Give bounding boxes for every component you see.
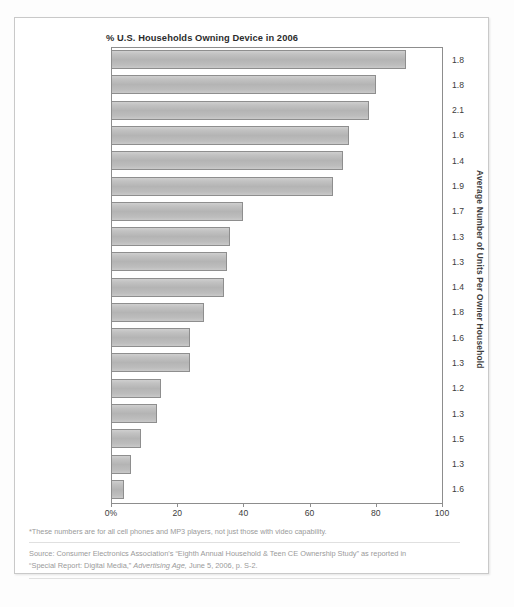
chart-row [111, 451, 442, 476]
units-per-household-value: 1.4 [452, 156, 464, 166]
bar [111, 126, 349, 145]
x-axis-tick-label: 60 [305, 508, 315, 518]
units-per-household-value: 1.3 [452, 257, 464, 267]
chart-row [111, 249, 442, 274]
x-axis-tick [177, 503, 178, 507]
bar [111, 353, 190, 372]
bar [111, 278, 224, 297]
bar [111, 202, 243, 221]
source-publication: Advertising Age, [133, 561, 187, 570]
chart-row [111, 350, 442, 375]
units-per-household-value: 1.3 [452, 358, 464, 368]
chart-row [111, 477, 442, 502]
units-per-household-value: 1.3 [452, 409, 464, 419]
x-axis-tick [111, 503, 112, 507]
x-axis: 0%20406080100 [111, 503, 443, 517]
chart-row [111, 275, 442, 300]
secondary-axis-title: Average Number of Units Per Owner Househ… [467, 170, 485, 369]
chart-title: % U.S. Households Owning Device in 2006 [106, 33, 298, 43]
plot-right-border [442, 47, 443, 503]
bar [111, 404, 157, 423]
bar [111, 303, 204, 322]
bar [111, 177, 333, 196]
x-axis-tick-label: 40 [239, 508, 249, 518]
source-line-2a: “Special Report: Digital Media,” [29, 561, 133, 570]
source-line-1: Source: Consumer Electronics Association… [29, 549, 406, 558]
page-background: % U.S. Households Owning Device in 2006 … [0, 0, 514, 607]
bar [111, 50, 406, 69]
units-per-household-value: 1.8 [452, 80, 464, 90]
x-axis-tick [442, 503, 443, 507]
x-axis-tick-label: 100 [435, 508, 449, 518]
units-per-household-value: 1.2 [452, 383, 464, 393]
bar [111, 151, 343, 170]
chart-row [111, 173, 442, 198]
chart-row [111, 224, 442, 249]
source-line-2b: June 5, 2006, p. S-2. [187, 561, 258, 570]
bar [111, 379, 161, 398]
x-axis-tick [376, 503, 377, 507]
units-per-household-value: 1.8 [452, 307, 464, 317]
chart-row [111, 426, 442, 451]
bar [111, 328, 190, 347]
x-axis-tick [310, 503, 311, 507]
units-per-household-value: 1.4 [452, 282, 464, 292]
bar [111, 480, 124, 499]
x-axis-tick-label: 0% [105, 508, 117, 518]
units-per-household-value: 1.5 [452, 434, 464, 444]
source-divider-bottom [29, 578, 460, 579]
chart-row [111, 401, 442, 426]
footnote-text: *These numbers are for all cell phones a… [29, 527, 449, 537]
units-per-household-value: 1.6 [452, 130, 464, 140]
units-per-household-value: 1.8 [452, 55, 464, 65]
chart-row [111, 148, 442, 173]
chart-row [111, 98, 442, 123]
x-axis-tick-label: 20 [172, 508, 182, 518]
units-per-household-value: 1.6 [452, 484, 464, 494]
chart-row [111, 300, 442, 325]
units-per-household-value: 1.3 [452, 232, 464, 242]
bar [111, 429, 141, 448]
chart-row [111, 123, 442, 148]
chart-row [111, 376, 442, 401]
units-per-household-value: 2.1 [452, 105, 464, 115]
bar [111, 101, 369, 120]
x-axis-tick-label: 80 [371, 508, 381, 518]
units-per-household-value: 1.3 [452, 459, 464, 469]
source-divider-top [29, 542, 460, 543]
bar [111, 227, 230, 246]
chart-row [111, 325, 442, 350]
bar [111, 455, 131, 474]
bar [111, 75, 376, 94]
units-per-household-value: 1.7 [452, 206, 464, 216]
units-per-household-value: 1.6 [452, 333, 464, 343]
chart-row [111, 199, 442, 224]
bar [111, 252, 227, 271]
chart-row [111, 72, 442, 97]
source-text: Source: Consumer Electronics Association… [29, 548, 457, 571]
x-axis-tick [243, 503, 244, 507]
chart-row [111, 47, 442, 72]
units-per-household-value: 1.9 [452, 181, 464, 191]
